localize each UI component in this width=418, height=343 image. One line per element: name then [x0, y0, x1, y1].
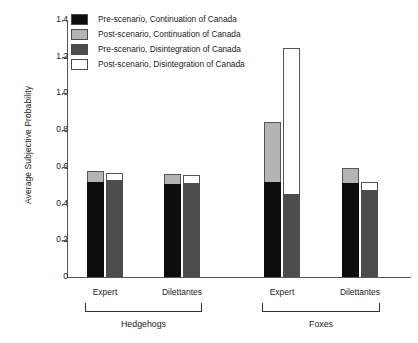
group-bracket	[85, 303, 202, 312]
bar-segment-pre-disintegration	[106, 180, 123, 277]
bar-segment-pre-continuation	[87, 182, 104, 277]
bar	[342, 168, 359, 277]
bar-segment-pre-disintegration	[361, 190, 378, 277]
bar-chart: Average Subjective Probability 1.41.21.0…	[0, 0, 418, 343]
bar	[264, 122, 281, 277]
bar	[106, 173, 123, 277]
x-axis-sub-label: Expert	[242, 287, 322, 297]
bar	[164, 174, 181, 277]
plot-area	[68, 20, 411, 277]
x-axis-sub-label: Dilettantes	[320, 287, 400, 297]
bar	[183, 175, 200, 277]
y-tick: 0	[30, 277, 68, 278]
x-axis-sub-label: Expert	[65, 287, 145, 297]
x-axis-sub-label: Dilettantes	[142, 287, 222, 297]
x-axis-group-label: Hedgehogs	[45, 319, 242, 329]
bar-segment-pre-continuation	[264, 182, 281, 277]
bar	[87, 171, 104, 277]
x-axis-group-label: Foxes	[222, 319, 418, 329]
y-tick-label: 0	[42, 272, 68, 281]
bar	[361, 182, 378, 277]
bar-segment-pre-continuation	[342, 183, 359, 277]
x-axis-line	[67, 277, 411, 278]
y-axis-title: Average Subjective Probability	[23, 45, 33, 245]
bar	[283, 48, 300, 277]
bar-segment-pre-disintegration	[183, 183, 200, 277]
bar-segment-pre-disintegration	[283, 194, 300, 277]
bar-segment-pre-continuation	[164, 184, 181, 277]
group-bracket	[262, 303, 380, 312]
